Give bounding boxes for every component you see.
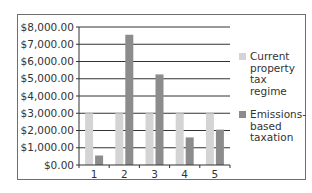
legend-label: tax xyxy=(250,73,267,85)
bars xyxy=(85,35,224,165)
bar-emissions xyxy=(125,35,133,165)
legend-label: regime xyxy=(250,85,287,97)
y-tick-label: $0.00 xyxy=(44,159,74,171)
legend-swatch xyxy=(239,111,246,118)
y-tick-label: $4,000.00 xyxy=(21,90,74,102)
legend-label: Emissions- xyxy=(250,108,306,120)
bar-chart: $0.00$1,000.00$2,000.00$3,000.00$4,000.0… xyxy=(0,0,312,193)
bar-emissions xyxy=(216,130,224,165)
bar-current xyxy=(146,113,154,165)
y-tick-label: $6,000.00 xyxy=(21,55,74,67)
legend-label: based xyxy=(250,120,282,132)
y-tick-label: $3,000.00 xyxy=(21,107,74,119)
y-tick-label: $7,000.00 xyxy=(21,38,74,50)
bar-current xyxy=(206,113,214,165)
x-tick-label: 4 xyxy=(181,168,188,180)
x-tick-labels: 12345 xyxy=(91,168,218,180)
x-tick-label: 1 xyxy=(91,168,98,180)
y-tick-label: $2,000.00 xyxy=(21,124,74,136)
y-tick-labels: $0.00$1,000.00$2,000.00$3,000.00$4,000.0… xyxy=(21,21,74,171)
legend: CurrentpropertytaxregimeEmissions-basedt… xyxy=(239,50,306,143)
legend-label: taxation xyxy=(250,131,293,143)
bar-current xyxy=(176,113,184,165)
bar-emissions xyxy=(186,137,194,165)
bar-current xyxy=(85,113,93,165)
x-tick-label: 5 xyxy=(212,168,219,180)
x-tick-label: 2 xyxy=(121,168,128,180)
legend-label: Current xyxy=(250,50,289,62)
y-tick-label: $8,000.00 xyxy=(21,21,74,33)
x-tick-label: 3 xyxy=(151,168,158,180)
bar-emissions xyxy=(95,156,103,165)
legend-label: property xyxy=(250,62,295,74)
bar-emissions xyxy=(156,74,164,165)
y-tick-label: $1,000.00 xyxy=(21,141,74,153)
bar-current xyxy=(115,113,123,165)
y-tick-label: $5,000.00 xyxy=(21,72,74,84)
legend-swatch xyxy=(239,53,246,60)
